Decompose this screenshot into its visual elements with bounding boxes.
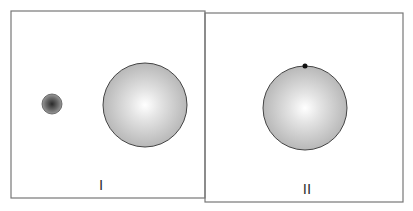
panel-ii bbox=[205, 13, 403, 202]
large-sphere-icon bbox=[103, 63, 187, 147]
diagram-canvas bbox=[0, 0, 413, 211]
panel-i-label: I bbox=[99, 176, 103, 193]
large-sphere-icon bbox=[263, 66, 347, 150]
panel-i bbox=[11, 11, 205, 198]
panel-ii-label: II bbox=[303, 180, 311, 197]
surface-dot-icon bbox=[303, 64, 308, 69]
small-sphere-icon bbox=[42, 94, 62, 114]
